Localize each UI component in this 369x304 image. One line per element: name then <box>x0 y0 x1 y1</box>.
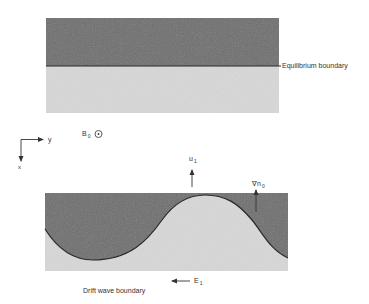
equilibrium-boundary-label: Equilibrium boundary <box>282 62 348 69</box>
drift-wave-boundary-label: Drift wave boundary <box>83 287 145 294</box>
drift-wave-panel <box>45 193 288 271</box>
velocity-label: u1 <box>189 155 197 164</box>
magnetic-field-symbol: B <box>82 130 87 137</box>
coordinate-axes <box>21 140 43 162</box>
density-gradient-symbol: ∇n <box>252 180 261 187</box>
y-axis-label: y <box>48 136 52 143</box>
electric-field-symbol: E <box>194 277 199 284</box>
magnetic-field-label: B0 <box>82 130 90 139</box>
magnetic-field-subscript: 0 <box>88 133 91 139</box>
x-axis-label: x <box>18 164 21 170</box>
equilibrium-upper-region <box>46 18 279 66</box>
equilibrium-lower-region <box>46 66 279 113</box>
electric-field-subscript: 1 <box>200 280 203 286</box>
electric-field-label: E1 <box>194 277 202 286</box>
equilibrium-panel <box>46 18 281 113</box>
out-of-page-icon <box>95 131 102 138</box>
velocity-symbol: u <box>189 155 193 162</box>
density-gradient-subscript: 0 <box>262 183 265 189</box>
velocity-subscript: 1 <box>194 158 197 164</box>
diagram-canvas <box>0 0 369 304</box>
density-gradient-label: ∇n0 <box>252 180 265 189</box>
